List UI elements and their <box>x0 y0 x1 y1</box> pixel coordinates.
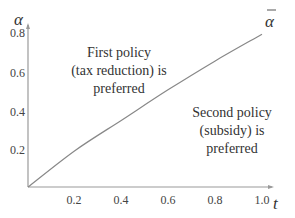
x-axis-label: t <box>273 194 279 213</box>
policy-preference-chart: 0.2 0.4 0.6 0.8 1.0 0.2 0.4 0.6 0.8 α t … <box>0 0 295 218</box>
region-first-line: preferred <box>93 81 144 96</box>
y-axis-label: α <box>14 10 24 29</box>
x-tick-label: 0.6 <box>161 193 176 207</box>
y-tick-label: 0.2 <box>10 143 25 157</box>
curve-label: α <box>265 10 276 31</box>
region-first-line: (tax reduction) is <box>71 63 167 79</box>
y-axis-arrow-icon <box>26 23 30 29</box>
x-tick-label: 1.0 <box>255 193 270 207</box>
region-second-line: Second policy <box>192 105 272 120</box>
x-tick-labels: 0.2 0.4 0.6 0.8 1.0 <box>67 193 270 207</box>
x-tick-label: 0.2 <box>67 193 82 207</box>
region-second-line: preferred <box>206 141 257 156</box>
x-tick-label: 0.8 <box>208 193 223 207</box>
region-first-policy: First policy (tax reduction) is preferre… <box>71 45 167 96</box>
x-tick-label: 0.4 <box>114 193 129 207</box>
y-tick-labels: 0.2 0.4 0.6 0.8 <box>10 26 25 157</box>
region-first-line: First policy <box>87 45 151 60</box>
y-tick-label: 0.6 <box>10 66 25 80</box>
region-second-line: (subsidy) is <box>200 123 265 139</box>
x-axis-arrow-icon <box>268 185 274 189</box>
y-tick-label: 0.4 <box>10 105 25 119</box>
curve-label-text: α <box>265 12 275 31</box>
region-second-policy: Second policy (subsidy) is preferred <box>192 105 272 156</box>
